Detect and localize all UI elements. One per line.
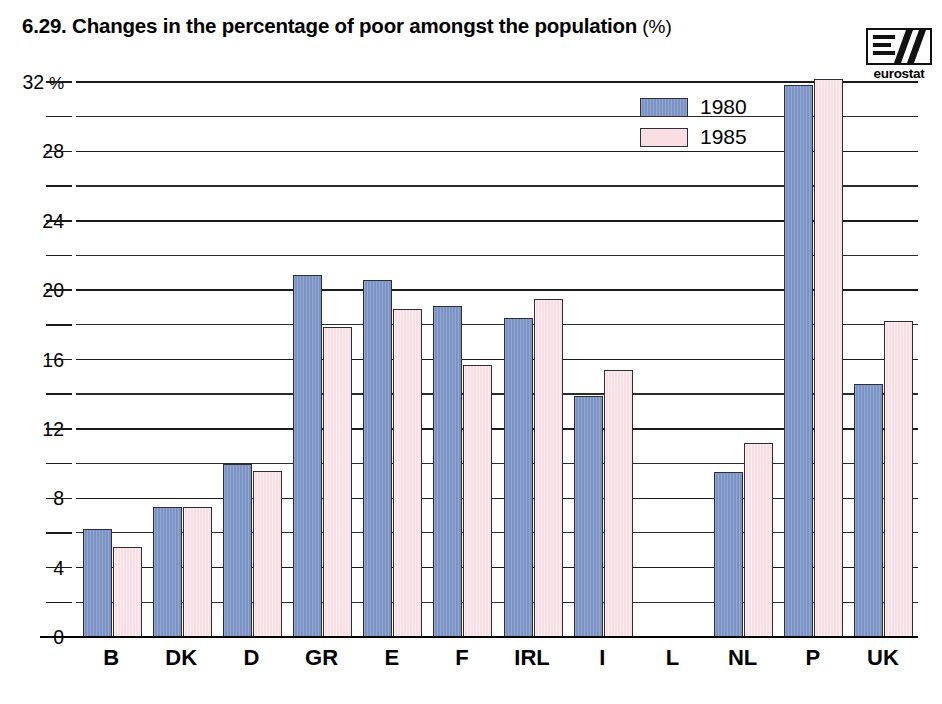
bar-group-NL xyxy=(708,82,778,637)
title-row: 6.29. Changes in the percentage of poor … xyxy=(22,14,922,54)
bar-IRL-1980 xyxy=(504,318,533,637)
x-axis-label-IRL: IRL xyxy=(514,645,549,671)
bar-F-1985 xyxy=(463,365,492,637)
x-axis-label-DK: DK xyxy=(165,645,197,671)
plot-area xyxy=(76,82,918,637)
title-unit: (%) xyxy=(642,16,672,37)
tick-stub-20 xyxy=(46,289,72,291)
bar-group-I xyxy=(567,82,637,637)
legend-label-1985: 1985 xyxy=(700,125,747,149)
x-axis-label-I: I xyxy=(599,645,605,671)
tick-stub-28 xyxy=(46,151,72,153)
tick-stub-4 xyxy=(46,567,72,569)
bar-group-E xyxy=(357,82,427,637)
x-axis-label-L: L xyxy=(666,645,679,671)
legend-swatch-1985 xyxy=(640,128,688,147)
legend-label-1980: 1980 xyxy=(700,95,747,119)
bar-group-GR xyxy=(287,82,357,637)
bar-B-1980 xyxy=(83,529,112,637)
bar-group-DK xyxy=(146,82,216,637)
bar-group-UK xyxy=(848,82,918,637)
bar-UK-1980 xyxy=(854,384,883,637)
x-axis-label-F: F xyxy=(455,645,468,671)
tick-stub-24 xyxy=(46,220,72,222)
tick-stub-10 xyxy=(46,463,72,465)
bar-GR-1985 xyxy=(323,327,352,637)
legend-item-1985: 1985 xyxy=(640,122,810,152)
bar-D-1980 xyxy=(223,464,252,637)
bar-IRL-1985 xyxy=(534,299,563,637)
tick-stub-16 xyxy=(46,359,72,361)
tick-stub-32 xyxy=(46,81,72,83)
bar-I-1985 xyxy=(604,370,633,637)
tick-stub-26 xyxy=(46,185,72,187)
footer-strip xyxy=(0,690,942,704)
legend-swatch-1980 xyxy=(640,98,688,117)
bar-group-L xyxy=(637,82,707,637)
bar-E-1980 xyxy=(363,280,392,637)
tick-stub-2 xyxy=(46,602,72,604)
bar-DK-1985 xyxy=(183,507,212,637)
bar-group-IRL xyxy=(497,82,567,637)
bar-UK-1985 xyxy=(884,321,913,637)
tick-stub-6 xyxy=(46,532,72,534)
bar-GR-1980 xyxy=(293,275,322,637)
bar-B-1985 xyxy=(113,547,142,637)
x-axis-label-NL: NL xyxy=(728,645,757,671)
legend-item-1980: 1980 xyxy=(640,92,810,122)
bar-group-D xyxy=(216,82,286,637)
bar-I-1980 xyxy=(574,396,603,637)
x-axis-label-GR: GR xyxy=(305,645,338,671)
x-axis-label-E: E xyxy=(384,645,399,671)
tick-stub-30 xyxy=(46,116,72,118)
tick-stub-12 xyxy=(46,428,72,430)
bar-group-B xyxy=(76,82,146,637)
bar-D-1985 xyxy=(253,471,282,638)
tick-stub-8 xyxy=(46,498,72,500)
x-axis-label-UK: UK xyxy=(867,645,899,671)
bar-group-P xyxy=(778,82,848,637)
eurostat-mark-icon xyxy=(866,28,932,65)
eurostat-wordmark: eurostat xyxy=(864,66,934,81)
x-axis-label-B: B xyxy=(103,645,119,671)
x-axis-label-D: D xyxy=(243,645,259,671)
bar-NL-1980 xyxy=(714,472,743,637)
tick-stub-18 xyxy=(46,324,72,326)
y-axis-unit: % xyxy=(44,74,64,93)
tick-stub-22 xyxy=(46,255,72,257)
x-axis-label-P: P xyxy=(805,645,820,671)
x-axis: BDKDGREFIRLILNLPUK xyxy=(76,645,918,685)
bar-P-1980 xyxy=(784,85,813,637)
bar-F-1980 xyxy=(433,306,462,637)
legend: 19801985 xyxy=(640,92,810,152)
bar-P-1985 xyxy=(814,79,843,637)
bar-NL-1985 xyxy=(744,443,773,637)
bar-E-1985 xyxy=(393,309,422,637)
bar-group-F xyxy=(427,82,497,637)
eurostat-logo: eurostat xyxy=(864,28,934,81)
x-axis-baseline xyxy=(40,636,918,639)
page-title: 6.29. Changes in the percentage of poor … xyxy=(22,14,637,37)
bars-layer xyxy=(76,82,918,637)
tick-stub-14 xyxy=(46,393,72,395)
bar-DK-1980 xyxy=(153,507,182,637)
